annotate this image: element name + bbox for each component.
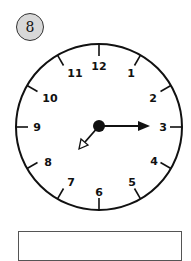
clock-number-5: 5: [128, 176, 136, 189]
clock-number-4: 4: [150, 155, 158, 168]
answer-input-box[interactable]: [18, 231, 182, 261]
clock-number-6: 6: [95, 186, 103, 199]
clock-number-11: 11: [67, 67, 82, 80]
clock-number-7: 7: [67, 176, 75, 189]
clock-number-3: 3: [159, 121, 167, 134]
clock-number-12: 12: [91, 60, 106, 73]
clock-number-9: 9: [33, 121, 41, 134]
clock-number-2: 2: [149, 92, 157, 105]
clock-center-pin: [93, 120, 105, 132]
clock-number-1: 1: [127, 67, 135, 80]
clock-number-10: 10: [42, 92, 58, 105]
clock-number-8: 8: [44, 156, 52, 169]
